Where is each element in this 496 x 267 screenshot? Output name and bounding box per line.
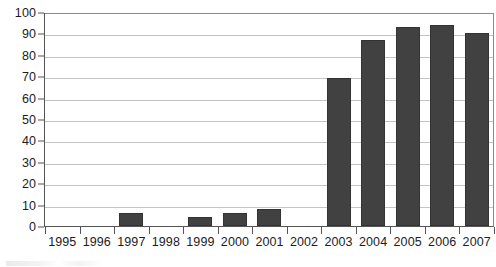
bar-slot	[45, 14, 80, 226]
bar-2000	[223, 213, 247, 226]
bar-slot	[80, 14, 115, 226]
x-axis-tick-label: 1995	[48, 236, 76, 250]
x-axis-tick-mark	[425, 227, 426, 234]
x-axis-tick-label: 2007	[463, 236, 491, 250]
x-axis-tick-mark	[114, 227, 115, 234]
y-axis-tick-label: 60	[22, 92, 36, 105]
bar-slot	[356, 14, 391, 226]
y-axis-tick-label: 50	[22, 114, 36, 127]
x-axis-tick-mark	[494, 227, 495, 234]
x-axis-tick-label: 1999	[186, 236, 214, 250]
y-axis-tick-mark	[38, 34, 44, 35]
y-axis-tick-label: 100	[15, 7, 36, 20]
x-axis-tick-label: 1998	[152, 236, 180, 250]
bar-slot	[114, 14, 149, 226]
bar-slot	[321, 14, 356, 226]
x-axis-tick-mark	[218, 227, 219, 234]
y-axis-tick-label: 20	[22, 178, 36, 191]
y-axis-tick-mark	[38, 98, 44, 99]
bar-2005	[396, 27, 420, 226]
bar-series	[45, 14, 493, 226]
x-axis-tick-label: 2002	[290, 236, 318, 250]
x-axis-tick-label: 1997	[117, 236, 145, 250]
y-axis-tick-mark	[38, 55, 44, 56]
x-axis-tick-label: 2000	[221, 236, 249, 250]
bar-slot	[425, 14, 460, 226]
y-axis-tick-mark	[38, 120, 44, 121]
x-axis-tick-label: 2003	[324, 236, 352, 250]
y-axis-tick-mark	[38, 205, 44, 206]
x-axis-tick-marks	[45, 227, 494, 234]
bar-2004	[361, 40, 385, 226]
bar-2003	[327, 78, 351, 226]
bar-chart-figure: 0102030405060708090100 19951996199719981…	[0, 0, 496, 267]
bar-slot	[183, 14, 218, 226]
plot-area	[45, 13, 494, 227]
x-axis-tick-label: 2001	[255, 236, 283, 250]
x-axis-tick-mark	[459, 227, 460, 234]
bar-slot	[252, 14, 287, 226]
x-axis-tick-label: 2004	[359, 236, 387, 250]
x-axis-tick-label: 1996	[83, 236, 111, 250]
y-axis-tick-mark	[38, 227, 44, 228]
x-axis-tick-mark	[183, 227, 184, 234]
y-axis-tick-mark	[38, 162, 44, 163]
x-axis: 1995199619971998199920002001200220032004…	[45, 236, 494, 254]
y-axis-tick-mark	[38, 184, 44, 185]
bar-1999	[188, 217, 212, 226]
x-axis-tick-mark	[356, 227, 357, 234]
y-axis-tick-mark	[38, 141, 44, 142]
x-axis-tick-label: 2005	[394, 236, 422, 250]
y-axis-tick-label: 80	[22, 50, 36, 63]
x-axis-tick-mark	[252, 227, 253, 234]
y-axis-tick-mark	[38, 13, 44, 14]
y-axis-tick-label: 30	[22, 157, 36, 170]
x-axis-tick-mark	[149, 227, 150, 234]
x-axis-tick-mark	[321, 227, 322, 234]
bar-1997	[119, 213, 143, 226]
x-axis-tick-mark	[390, 227, 391, 234]
bar-slot	[149, 14, 184, 226]
bar-2006	[430, 25, 454, 226]
bar-2001	[257, 209, 281, 226]
x-axis-tick-label: 2006	[428, 236, 456, 250]
bar-2007	[465, 33, 489, 226]
bar-slot	[218, 14, 253, 226]
y-axis-tick-label: 70	[22, 71, 36, 84]
y-axis-tick-label: 90	[22, 28, 36, 41]
page-edge-artifact	[6, 261, 102, 266]
x-axis-tick-mark	[45, 227, 46, 234]
y-axis-tick-label: 40	[22, 135, 36, 148]
bar-slot	[390, 14, 425, 226]
y-axis-tick-mark	[38, 77, 44, 78]
bar-slot	[459, 14, 494, 226]
y-axis-tick-label: 10	[22, 199, 36, 212]
x-axis-tick-mark	[80, 227, 81, 234]
bar-slot	[287, 14, 322, 226]
y-axis-tick-label: 0	[29, 221, 36, 234]
x-axis-tick-mark	[287, 227, 288, 234]
